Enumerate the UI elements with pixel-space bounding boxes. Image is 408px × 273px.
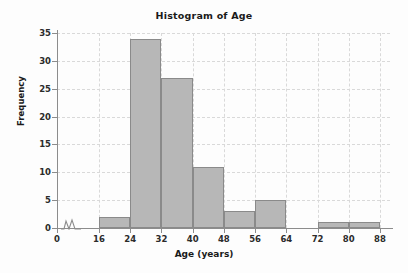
gridline-vertical xyxy=(99,33,100,228)
histogram-bar xyxy=(193,167,224,228)
x-axis-tick-label: 80 xyxy=(334,234,364,244)
gridline-vertical xyxy=(224,33,225,228)
x-axis-tick-label: 48 xyxy=(209,234,239,244)
y-axis-tick xyxy=(52,172,58,173)
x-axis-tick-label: 24 xyxy=(115,234,145,244)
x-axis-tick xyxy=(255,228,256,233)
y-axis-tick-label: 35 xyxy=(21,28,51,38)
x-axis-tick-label: 72 xyxy=(303,234,333,244)
histogram-bar xyxy=(161,78,192,228)
x-axis-tick xyxy=(130,228,131,233)
y-axis-tick-label: 20 xyxy=(21,112,51,122)
x-axis-tick xyxy=(224,228,225,233)
gridline-horizontal xyxy=(57,61,390,62)
histogram-bar xyxy=(224,211,255,228)
gridline-vertical xyxy=(349,33,350,228)
gridline-vertical xyxy=(318,33,319,228)
axis-break-icon xyxy=(60,216,82,230)
y-axis-tick-label: 0 xyxy=(21,223,51,233)
x-axis-tick-label: 0 xyxy=(42,234,72,244)
y-axis-tick xyxy=(52,89,58,90)
y-axis-tick xyxy=(52,200,58,201)
x-axis-tick xyxy=(161,228,162,233)
gridline-horizontal xyxy=(57,89,390,90)
y-axis-tick-label: 10 xyxy=(21,167,51,177)
x-axis-tick-label: 88 xyxy=(365,234,395,244)
y-axis-tick-label: 25 xyxy=(21,84,51,94)
x-axis-tick xyxy=(318,228,319,233)
y-axis-tick xyxy=(52,61,58,62)
chart-title: Histogram of Age xyxy=(0,10,408,21)
y-axis-tick xyxy=(52,33,58,34)
x-axis-line xyxy=(57,228,393,229)
x-axis-tick-label: 16 xyxy=(84,234,114,244)
gridline-horizontal xyxy=(57,117,390,118)
gridline-horizontal xyxy=(57,33,390,34)
histogram-bar xyxy=(130,39,161,228)
x-axis-tick xyxy=(380,228,381,233)
plot-area xyxy=(57,33,390,228)
gridline-horizontal xyxy=(57,144,390,145)
y-axis-line xyxy=(57,30,58,229)
gridline-vertical xyxy=(380,33,381,228)
x-axis-tick xyxy=(193,228,194,233)
y-axis-title: Frequency xyxy=(16,56,26,146)
gridline-vertical xyxy=(286,33,287,228)
x-axis-tick xyxy=(57,228,58,233)
x-axis-tick xyxy=(349,228,350,233)
x-axis-tick-label: 40 xyxy=(178,234,208,244)
histogram-bar xyxy=(255,200,286,228)
x-axis-title: Age (years) xyxy=(0,249,408,259)
x-axis-tick xyxy=(286,228,287,233)
x-axis-tick-label: 56 xyxy=(240,234,270,244)
y-axis-tick xyxy=(52,144,58,145)
y-axis-tick-label: 5 xyxy=(21,195,51,205)
y-axis-tick-label: 15 xyxy=(21,139,51,149)
histogram-chart: Histogram of Age Frequency Age (years) 0… xyxy=(0,0,408,273)
gridline-vertical xyxy=(255,33,256,228)
y-axis-tick-label: 30 xyxy=(21,56,51,66)
x-axis-tick-label: 32 xyxy=(146,234,176,244)
x-axis-tick xyxy=(99,228,100,233)
x-axis-tick-label: 64 xyxy=(271,234,301,244)
histogram-bar xyxy=(99,217,130,228)
y-axis-tick xyxy=(52,117,58,118)
